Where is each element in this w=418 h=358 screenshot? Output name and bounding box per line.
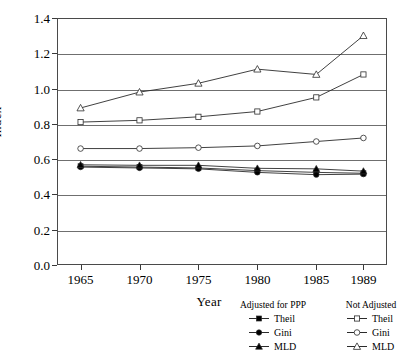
x-tick-label-1980: 1980 [227,272,287,288]
series-not-adjusted-theil [78,72,366,125]
legend-label: MLD [372,341,394,352]
legend-entry-not-adjusted-gini[interactable]: Gini [324,327,418,338]
legend-symbol-open-triangle [346,341,368,352]
series-line [81,167,364,175]
legend-symbol-open-square [346,313,368,324]
legend-headers: Adjusted for PPP Not Adjusted [222,300,418,310]
x-tick-mark-1965 [81,265,82,270]
legend-header-adjusted: Adjusted for PPP [222,300,324,310]
y-tick-mark-0.0 [52,265,57,266]
y-tick-label-0.0: 0.0 [16,259,50,272]
series-not-adjusted-gini [78,135,366,151]
y-tick-label-1.2: 1.2 [16,47,50,60]
data-point [314,95,319,100]
data-point [255,109,260,114]
series-line [81,74,364,122]
chart-root: Index 0.00.20.40.60.81.01.21.4 196519701… [0,0,418,358]
legend-row: GiniGini [222,325,418,339]
data-point [314,172,319,177]
x-tick-mark-1985 [316,265,317,270]
y-axis-label: Index [0,106,5,137]
legend-rows: TheilTheilGiniGiniMLDMLD [222,311,418,353]
legend-entry-not-adjusted-mld[interactable]: MLD [324,341,418,352]
legend-entry-not-adjusted-theil[interactable]: Theil [324,313,418,324]
legend-label: Gini [372,327,390,338]
x-tick-label-1970: 1970 [110,272,170,288]
y-tick-label-0.6: 0.6 [16,153,50,166]
data-point [361,72,366,77]
y-tick-label-0.4: 0.4 [16,188,50,201]
x-tick-label-1975: 1975 [168,272,228,288]
data-point [254,66,261,72]
x-tick-mark-1980 [257,265,258,270]
x-tick-label-1989: 1989 [333,272,393,288]
data-point [78,146,84,152]
series-line [81,166,364,173]
data-point [137,146,143,152]
y-tick-label-1.0: 1.0 [16,82,50,95]
y-tick-label-0.2: 0.2 [16,223,50,236]
legend-label: Theil [274,313,295,324]
legend-entry-adjusted-gini[interactable]: Gini [222,327,324,338]
series-line [81,36,364,108]
legend-entry-adjusted-theil[interactable]: Theil [222,313,324,324]
x-tick-mark-1970 [140,265,141,270]
series-not-adjusted-mld [77,32,367,111]
chart-legend: Adjusted for PPP Not Adjusted TheilTheil… [222,300,418,353]
data-series-layer [57,18,387,265]
legend-symbol-filled-triangle [248,341,270,352]
data-point [196,145,202,151]
legend-symbol-filled-circle [248,327,270,338]
data-point [78,119,83,124]
data-point [196,114,201,119]
x-tick-mark-1975 [198,265,199,270]
legend-row: MLDMLD [222,339,418,353]
data-point [255,143,261,149]
x-tick-mark-1989 [363,265,364,270]
legend-header-not-adjusted: Not Adjusted [324,300,418,310]
data-point [361,135,367,141]
legend-label: MLD [274,341,296,352]
series-line [81,138,364,149]
data-point [137,118,142,123]
legend-label: Gini [274,327,292,338]
y-tick-label-0.8: 0.8 [16,117,50,130]
x-tick-label-1965: 1965 [51,272,111,288]
data-point [313,139,319,145]
y-tick-label-1.4: 1.4 [16,12,50,25]
legend-row: TheilTheil [222,311,418,325]
legend-symbol-open-circle [346,327,368,338]
legend-entry-adjusted-mld[interactable]: MLD [222,341,324,352]
data-point [360,32,367,38]
legend-label: Theil [372,313,393,324]
legend-symbol-filled-square [248,313,270,324]
